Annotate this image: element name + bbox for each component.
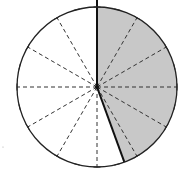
circle-diagram (0, 0, 190, 176)
speck (2, 146, 3, 147)
shaded-sector (97, 7, 177, 162)
center-point (95, 85, 99, 89)
